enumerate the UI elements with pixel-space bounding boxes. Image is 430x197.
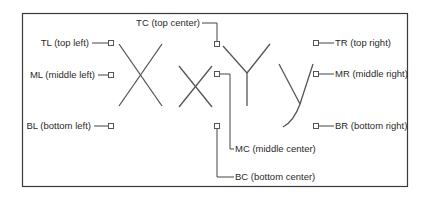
glyph-y-small: [279, 64, 313, 127]
label-MC: MC (middle center): [235, 143, 316, 154]
label-ML: ML (middle left): [30, 69, 95, 80]
marker-MC: [215, 72, 220, 77]
marker-TC: [215, 42, 220, 47]
label-TR: TR (top right): [335, 37, 391, 48]
anchor-markers: [109, 41, 319, 129]
marker-BR: [314, 124, 319, 129]
marker-TR: [314, 41, 319, 46]
label-BR: BR (bottom right): [335, 120, 407, 131]
marker-MR: [314, 72, 319, 77]
label-TC: TC (top center): [136, 17, 200, 28]
label-MR: MR (middle right): [335, 68, 408, 79]
label-TL: TL (top left): [41, 37, 89, 48]
marker-BC: [215, 124, 220, 129]
glyph-x-small: [179, 66, 212, 107]
label-BC: BC (bottom center): [235, 171, 315, 182]
marker-ML: [109, 73, 114, 78]
marker-BL: [109, 124, 114, 129]
marker-TL: [109, 41, 114, 46]
diagram-canvas: [0, 0, 430, 197]
label-BL: BL (bottom left): [26, 120, 91, 131]
glyph-X-large: [119, 44, 162, 106]
